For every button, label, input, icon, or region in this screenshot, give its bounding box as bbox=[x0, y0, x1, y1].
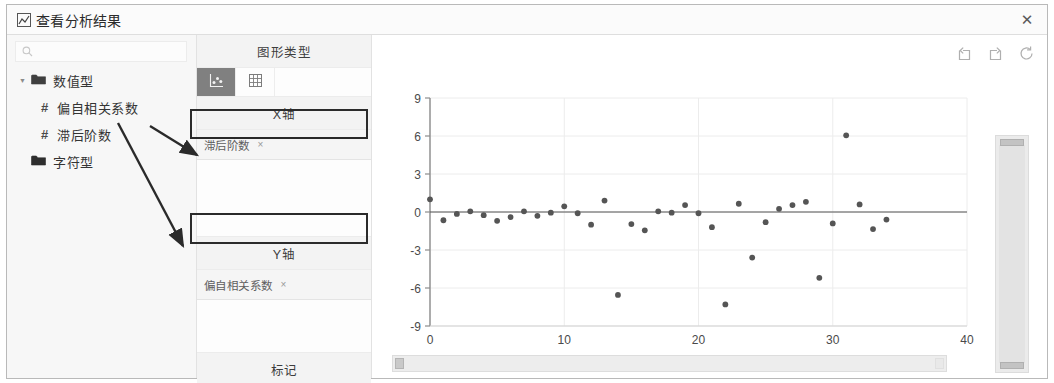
window-content: ▼ 数值型 # 偏自相关系数 # 滞后阶数 bbox=[7, 35, 1047, 378]
scatter-plot-icon bbox=[209, 73, 224, 92]
y-range-slider-handle-top[interactable] bbox=[1000, 139, 1024, 146]
y-axis-chip-label: 偏自相关系数 bbox=[204, 277, 272, 293]
svg-text:40: 40 bbox=[960, 333, 974, 347]
search-icon bbox=[22, 43, 33, 61]
x-axis-shelf[interactable]: 滞后阶数 × bbox=[197, 130, 371, 160]
shelf-spacer bbox=[197, 160, 371, 237]
tree-item-pacf[interactable]: # 偏自相关系数 bbox=[7, 94, 196, 121]
scatter-plot[interactable]: 9630-3-6-9010203040 bbox=[392, 90, 977, 358]
marks-header: 标记 bbox=[197, 353, 371, 383]
hash-icon: # bbox=[41, 127, 48, 142]
table-grid-icon bbox=[249, 73, 262, 91]
y-axis-chip[interactable]: 偏自相关系数 × bbox=[204, 277, 287, 293]
tree-item-label: 偏自相关系数 bbox=[57, 98, 138, 117]
svg-text:-9: -9 bbox=[410, 320, 421, 334]
undo-rotate-icon[interactable] bbox=[956, 45, 973, 66]
shelf-spacer bbox=[197, 300, 371, 353]
x-axis-header: X轴 bbox=[197, 97, 371, 130]
analysis-result-window: 查看分析结果 ✕ ▼ bbox=[6, 4, 1048, 379]
y-range-slider[interactable] bbox=[995, 135, 1029, 373]
x-axis-chip-label: 滞后阶数 bbox=[204, 137, 250, 153]
svg-text:9: 9 bbox=[414, 92, 421, 106]
x-range-slider-handle-left[interactable] bbox=[395, 358, 404, 369]
search-input[interactable] bbox=[37, 45, 171, 59]
chart-toolbar bbox=[956, 45, 1035, 66]
y-axis-chip-remove-icon[interactable]: × bbox=[280, 279, 286, 290]
tree-item-numeric-folder[interactable]: ▼ 数值型 bbox=[7, 67, 196, 94]
y-axis-shelf[interactable]: 偏自相关系数 × bbox=[197, 270, 371, 300]
x-range-slider[interactable] bbox=[392, 355, 947, 372]
refresh-icon[interactable] bbox=[1018, 45, 1035, 66]
chart-type-buttons bbox=[197, 68, 371, 97]
tree-item-label: 滞后阶数 bbox=[57, 125, 111, 144]
svg-text:30: 30 bbox=[826, 333, 840, 347]
window-titlebar: 查看分析结果 ✕ bbox=[7, 5, 1047, 35]
chevron-down-icon[interactable]: ▼ bbox=[19, 77, 29, 84]
redo-rotate-icon[interactable] bbox=[987, 45, 1004, 66]
tree-item-label: 数值型 bbox=[53, 71, 94, 90]
data-points bbox=[427, 132, 889, 307]
tree-item-string-folder[interactable]: ▶ 字符型 bbox=[7, 148, 196, 175]
close-icon[interactable]: ✕ bbox=[1017, 10, 1037, 30]
svg-text:0: 0 bbox=[414, 206, 421, 220]
field-search-box[interactable] bbox=[15, 41, 187, 62]
table-chart-type-button[interactable] bbox=[236, 68, 275, 96]
svg-text:-6: -6 bbox=[410, 282, 421, 296]
chart-type-header: 图形类型 bbox=[197, 35, 371, 68]
chart-window-icon bbox=[17, 13, 31, 27]
scatter-plot-svg[interactable]: 9630-3-6-9010203040 bbox=[392, 90, 977, 358]
x-axis-chip[interactable]: 滞后阶数 × bbox=[204, 137, 264, 153]
svg-text:-3: -3 bbox=[410, 244, 421, 258]
tree-item-lag-order[interactable]: # 滞后阶数 bbox=[7, 121, 196, 148]
folder-icon bbox=[31, 154, 46, 169]
svg-text:20: 20 bbox=[692, 333, 706, 347]
window-title: 查看分析结果 bbox=[36, 10, 122, 30]
svg-text:3: 3 bbox=[414, 168, 421, 182]
chart-pane: 9630-3-6-9010203040 bbox=[372, 35, 1047, 378]
svg-text:10: 10 bbox=[558, 333, 572, 347]
x-range-slider-handle-right[interactable] bbox=[935, 358, 944, 369]
svg-text:0: 0 bbox=[427, 333, 434, 347]
x-axis-chip-remove-icon[interactable]: × bbox=[258, 139, 264, 150]
svg-text:6: 6 bbox=[414, 130, 421, 144]
y-axis-header: Y轴 bbox=[197, 237, 371, 270]
field-tree-pane: ▼ 数值型 # 偏自相关系数 # 滞后阶数 bbox=[7, 35, 197, 378]
folder-icon bbox=[31, 73, 46, 88]
tree-item-label: 字符型 bbox=[53, 152, 94, 171]
scatter-chart-type-button[interactable] bbox=[197, 68, 236, 96]
hash-icon: # bbox=[41, 100, 48, 115]
shelf-pane: 图形类型 bbox=[197, 35, 372, 378]
y-range-slider-track[interactable] bbox=[999, 145, 1025, 363]
y-range-slider-handle-bottom[interactable] bbox=[1000, 362, 1024, 369]
field-tree: ▼ 数值型 # 偏自相关系数 # 滞后阶数 bbox=[7, 67, 196, 175]
